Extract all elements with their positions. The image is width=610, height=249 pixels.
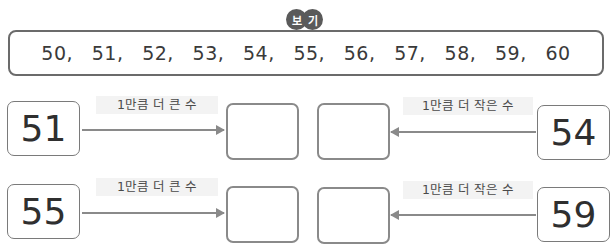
given-number-box: 55 (7, 184, 80, 239)
relation-label: 1만큼 더 작은 수 (403, 181, 533, 199)
example-number-list: 50, 51, 52, 53, 54, 55, 56, 57, 58, 59, … (10, 32, 602, 74)
badge-char: 기 (302, 9, 323, 30)
example-number: 52, (142, 42, 174, 64)
given-number-box: 54 (537, 105, 610, 160)
example-number: 58, (445, 42, 477, 64)
arrow-right-icon (82, 129, 224, 131)
relation-label: 1만큼 더 작은 수 (403, 97, 533, 115)
answer-box[interactable] (226, 186, 299, 243)
arrow-left-icon (391, 214, 536, 216)
example-box: 50, 51, 52, 53, 54, 55, 56, 57, 58, 59, … (8, 30, 604, 76)
example-badge: 보 기 (282, 9, 330, 30)
arrow-right-icon (82, 212, 224, 214)
arrow-left-icon (391, 131, 536, 133)
example-number: 59, (495, 42, 527, 64)
answer-box[interactable] (317, 103, 390, 160)
example-number: 51, (92, 42, 124, 64)
relation-label: 1만큼 더 큰 수 (96, 178, 218, 196)
answer-box[interactable] (317, 187, 390, 244)
example-number: 57, (394, 42, 426, 64)
answer-box[interactable] (226, 103, 299, 160)
given-number-box: 51 (7, 101, 80, 156)
relation-label: 1만큼 더 큰 수 (96, 96, 218, 114)
example-number: 55, (293, 42, 325, 64)
example-number: 60 (545, 42, 570, 64)
example-number: 53, (193, 42, 225, 64)
example-number: 54, (243, 42, 275, 64)
given-number-box: 59 (537, 187, 610, 242)
example-number: 50, (41, 42, 73, 64)
example-number: 56, (344, 42, 376, 64)
